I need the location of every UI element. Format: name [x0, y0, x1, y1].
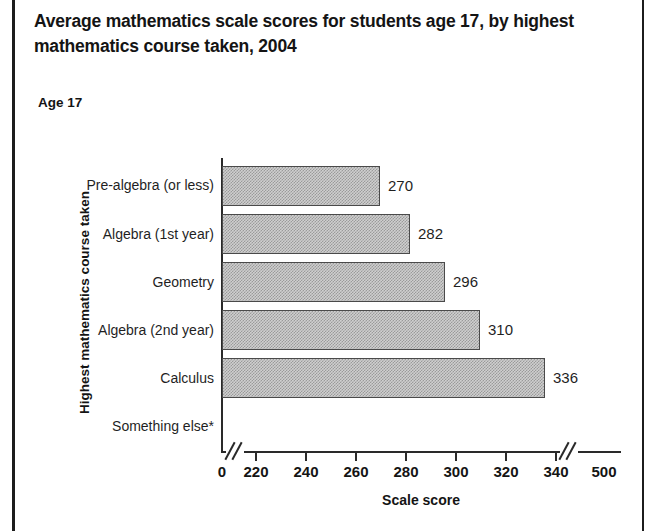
bar-calculus [222, 358, 545, 398]
plot-area: Highest mathematics course taken Pre-alg… [0, 0, 655, 531]
bar-pre-algebra [222, 166, 380, 206]
bar-value-algebra-2: 310 [488, 321, 513, 338]
x-tick-280 [405, 452, 407, 461]
category-label-pre-algebra: Pre-algebra (or less) [0, 177, 214, 193]
x-tick-300 [455, 452, 457, 461]
x-tick-340 [555, 452, 557, 461]
category-label-geometry: Geometry [0, 274, 214, 290]
category-label-calculus: Calculus [0, 370, 214, 386]
category-label-something-else: Something else* [0, 418, 214, 434]
category-label-algebra-2: Algebra (2nd year) [0, 322, 214, 338]
x-tick-240 [305, 452, 307, 461]
x-tick-label-500: 500 [574, 463, 634, 480]
bar-value-pre-algebra: 270 [388, 177, 413, 194]
x-tick-220 [255, 452, 257, 461]
y-axis-title: Highest mathematics course taken [77, 153, 92, 453]
bar-algebra-2 [222, 310, 480, 350]
x-tick-260 [355, 452, 357, 461]
category-label-algebra-1: Algebra (1st year) [0, 226, 214, 242]
bar-value-algebra-1: 282 [418, 225, 443, 242]
x-axis-line [221, 451, 621, 453]
bar-geometry [222, 262, 445, 302]
bar-value-geometry: 296 [453, 273, 478, 290]
figure-container: Average mathematics scale scores for stu… [0, 0, 655, 531]
x-axis-title: Scale score [221, 492, 621, 508]
bar-value-calculus: 336 [553, 369, 578, 386]
bar-algebra-1 [222, 214, 410, 254]
x-tick-320 [505, 452, 507, 461]
